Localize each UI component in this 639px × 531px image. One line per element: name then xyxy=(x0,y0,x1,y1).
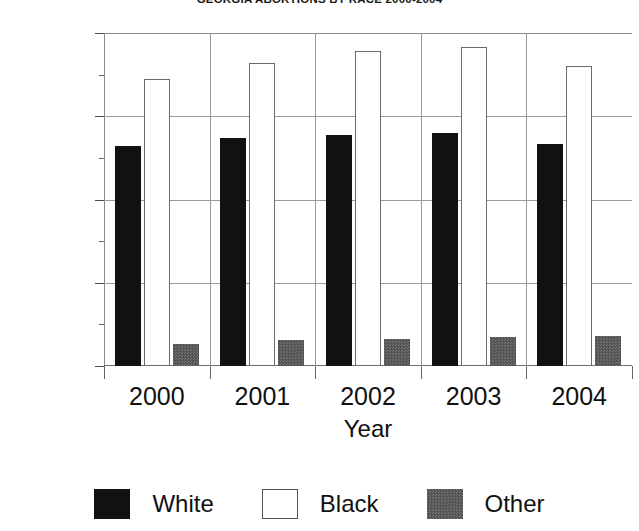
bar-white-2003 xyxy=(432,133,458,366)
bar-other-2004 xyxy=(595,336,621,366)
x-tick-3 xyxy=(421,366,422,379)
bar-white-2004 xyxy=(537,144,563,366)
category-separator-1 xyxy=(210,33,211,366)
plot-area xyxy=(104,33,632,366)
bar-black-2000 xyxy=(144,79,170,366)
y-major-tick-15000 xyxy=(95,116,104,117)
x-tick-right-edge xyxy=(632,366,633,379)
y-major-tick-5000 xyxy=(95,283,104,284)
bar-other-2002 xyxy=(384,339,410,366)
y-major-tick-20000 xyxy=(95,33,104,34)
chart-legend: White Black Other xyxy=(0,489,639,519)
x-tick-label-2002: 2002 xyxy=(340,382,396,411)
category-separator-4 xyxy=(526,33,527,366)
y-minor-tick-7500 xyxy=(99,241,104,242)
x-axis-title: Year xyxy=(104,415,632,443)
x-tick-label-2003: 2003 xyxy=(446,382,502,411)
bar-black-2001 xyxy=(249,63,275,366)
legend-item-other: Other xyxy=(427,489,545,519)
category-separator-3 xyxy=(421,33,422,366)
bar-white-2000 xyxy=(115,146,141,366)
x-tick-left-edge xyxy=(104,366,105,379)
x-tick-label-2001: 2001 xyxy=(235,382,291,411)
legend-label-white: White xyxy=(152,490,213,518)
x-tick-label-2004: 2004 xyxy=(551,382,607,411)
bar-white-2001 xyxy=(220,138,246,366)
chart-container: GEORGIA ABORTIONS BY RACE 2000-2004 0 50… xyxy=(0,0,639,531)
legend-label-black: Black xyxy=(320,490,379,518)
category-separator-2 xyxy=(315,33,316,366)
y-major-tick-10000 xyxy=(95,200,104,201)
legend-swatch-white-icon xyxy=(94,489,130,519)
legend-label-other: Other xyxy=(485,490,545,518)
y-major-tick-0 xyxy=(95,366,104,367)
bar-black-2004 xyxy=(566,66,592,366)
bar-black-2003 xyxy=(461,47,487,366)
y-minor-tick-2500 xyxy=(99,324,104,325)
bar-black-2002 xyxy=(355,51,381,366)
y-minor-tick-17500 xyxy=(99,75,104,76)
bar-other-2003 xyxy=(490,337,516,366)
x-tick-label-2000: 2000 xyxy=(129,382,185,411)
bar-other-2001 xyxy=(278,340,304,366)
legend-item-black: Black xyxy=(262,489,427,519)
x-tick-1 xyxy=(210,366,211,379)
legend-swatch-other-icon xyxy=(427,489,463,519)
bar-other-2000 xyxy=(173,344,199,366)
y-minor-tick-12500 xyxy=(99,158,104,159)
x-tick-4 xyxy=(526,366,527,379)
legend-item-white: White xyxy=(94,489,261,519)
chart-title: GEORGIA ABORTIONS BY RACE 2000-2004 xyxy=(0,0,639,5)
bar-white-2002 xyxy=(326,135,352,366)
legend-swatch-black-icon xyxy=(262,489,298,519)
x-tick-2 xyxy=(315,366,316,379)
plot-top-border xyxy=(104,33,632,34)
